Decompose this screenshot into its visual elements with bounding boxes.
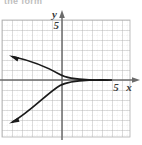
graph-screenshot: the form bbox=[0, 0, 142, 145]
x-axis-label: x bbox=[125, 81, 132, 93]
coordinate-plane-figure: y 5 5 x bbox=[0, 0, 142, 145]
grid-major bbox=[2, 20, 130, 137]
x-axis-tick-label: 5 bbox=[113, 81, 119, 93]
y-axis-tick-label: 5 bbox=[54, 19, 60, 31]
